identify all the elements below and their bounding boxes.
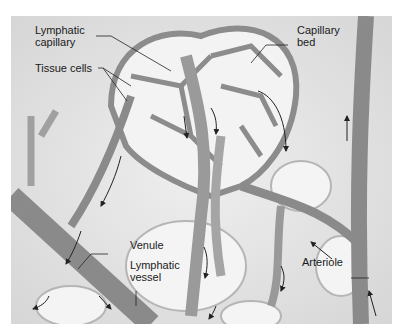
label-tissue-cells: Tissue cells: [35, 62, 92, 74]
label-venule: Venule: [130, 239, 164, 251]
label-lymphatic-capillary: Lymphatic capillary: [35, 24, 85, 48]
label-capillary-bed: Capillary bed: [297, 24, 340, 48]
label-lymphatic-vessel: Lymphatic vessel: [130, 259, 180, 283]
label-arteriole: Arteriole: [302, 256, 343, 268]
